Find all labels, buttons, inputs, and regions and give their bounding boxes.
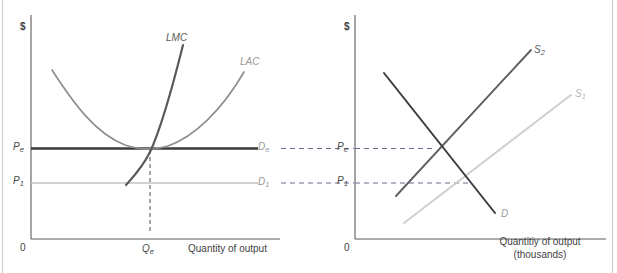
curve-label-s1: S1 — [575, 88, 586, 100]
left-panel-axes — [31, 15, 280, 239]
curve-label-d1: D1 — [258, 176, 269, 188]
curve-label-d1-sub: 1 — [265, 180, 269, 189]
right-ytick-pe: Pe — [337, 141, 348, 153]
right-origin-label: 0 — [344, 242, 350, 254]
figure-right-border — [612, 0, 613, 273]
right-y-axis-label: $ — [344, 21, 350, 33]
left-ytick-pe-sub: e — [20, 145, 24, 154]
right-ytick-pe-sub: e — [344, 145, 348, 154]
economics-figure: $ 0 Pe P1 Qe Quantity of output LMC LAC … — [0, 0, 617, 273]
left-ytick-p1-base: P — [13, 175, 20, 186]
right-panel-axes — [355, 15, 606, 239]
left-xtick-qe-base: Q — [142, 243, 150, 254]
right-x-axis-label-line2: (thousands) — [488, 249, 592, 261]
curve-label-s2-sub: 2 — [541, 48, 545, 57]
curve-label-lac: LAC — [240, 56, 259, 68]
figure-left-border — [2, 0, 3, 273]
right-ytick-p1-sub: 1 — [344, 179, 348, 188]
curve-label-de-sub: e — [265, 145, 269, 154]
curve-label-s1-base: S — [575, 88, 582, 99]
right-ytick-p1-base: P — [337, 175, 344, 186]
curve-label-d: D — [501, 208, 508, 220]
right-ytick-pe-base: P — [337, 141, 344, 152]
curve-label-s2: S2 — [534, 44, 545, 56]
left-xtick-qe-sub: e — [150, 247, 154, 256]
left-y-axis-label: $ — [20, 21, 26, 33]
curve-label-s1-sub: 1 — [582, 92, 586, 101]
curve-lmc — [126, 45, 183, 185]
curve-label-s2-base: S — [534, 44, 541, 55]
figure-canvas — [0, 0, 617, 273]
curve-label-lmc-base: LMC — [166, 32, 187, 43]
left-origin-label: 0 — [20, 242, 26, 254]
curve-label-d-base: D — [501, 208, 508, 219]
left-ytick-p1-sub: 1 — [20, 179, 24, 188]
curve-lac — [52, 70, 244, 149]
right-x-axis-label: Quantitiy of output — [488, 236, 592, 248]
left-x-axis-label: Quantity of output — [188, 243, 267, 255]
left-ytick-p1: P1 — [13, 175, 24, 187]
curve-label-de: De — [258, 141, 269, 153]
left-ytick-pe: Pe — [13, 141, 24, 153]
left-ytick-pe-base: P — [13, 141, 20, 152]
left-xtick-qe: Qe — [142, 243, 154, 255]
curve-label-lac-base: LAC — [240, 56, 259, 67]
right-ytick-p1: P1 — [337, 175, 348, 187]
curve-label-lmc: LMC — [166, 32, 187, 44]
